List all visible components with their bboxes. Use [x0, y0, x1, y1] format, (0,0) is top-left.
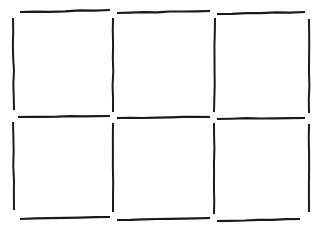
- stroke-left-edge-lower: [13, 122, 14, 210]
- stroke-right-edge-upper: [309, 19, 310, 113]
- canvas-background: [0, 0, 322, 230]
- stroke-middle-segment-left: [18, 116, 110, 117]
- stroke-divider-2-upper: [214, 18, 215, 112]
- grid-drawing: [0, 0, 322, 230]
- stroke-middle-segment-middle: [117, 117, 210, 118]
- stroke-divider-1-upper: [113, 18, 114, 112]
- drawing-canvas: [0, 0, 322, 230]
- stroke-middle-segment-right: [217, 118, 305, 119]
- stroke-left-edge-upper: [13, 18, 14, 110]
